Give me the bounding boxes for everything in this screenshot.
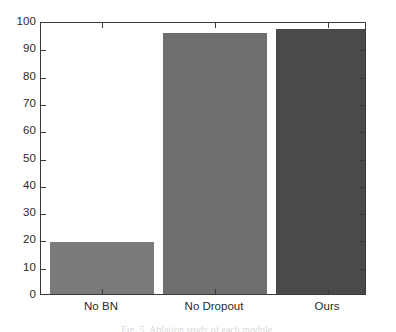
x-tick-mark: [215, 289, 216, 294]
y-tick-mark: [360, 214, 365, 215]
x-tick-mark: [102, 289, 103, 294]
y-tick-label: 60: [0, 125, 36, 137]
y-tick-label: 80: [0, 71, 36, 83]
y-tick-mark: [41, 187, 46, 188]
x-tick-mark: [328, 23, 329, 28]
y-tick-label: 100: [0, 16, 36, 28]
y-tick-mark: [360, 105, 365, 106]
x-tick-label-ours: Ours: [315, 300, 340, 313]
y-tick-label: 10: [0, 262, 36, 274]
x-tick-label-no-dropout: No Dropout: [185, 300, 244, 313]
y-tick-mark: [41, 269, 46, 270]
plot-area: [40, 22, 366, 295]
y-tick-label: 20: [0, 235, 36, 247]
y-tick-mark: [360, 187, 365, 188]
y-tick-mark: [41, 50, 46, 51]
y-tick-mark: [41, 132, 46, 133]
y-tick-mark: [41, 214, 46, 215]
x-tick-mark: [215, 23, 216, 28]
x-tick-label-no-bn: No BN: [84, 300, 118, 313]
figure-caption: Fig. 5. Ablation study of each module.: [0, 323, 396, 332]
y-tick-label: 0: [0, 289, 36, 301]
y-tick-mark: [360, 78, 365, 79]
y-tick-mark: [360, 50, 365, 51]
y-tick-label: 50: [0, 153, 36, 165]
y-tick-mark: [41, 160, 46, 161]
bar-no-bn: [50, 242, 154, 294]
y-tick-mark: [360, 160, 365, 161]
y-tick-mark: [41, 241, 46, 242]
y-tick-label: 40: [0, 180, 36, 192]
x-tick-mark: [328, 289, 329, 294]
figure-container: 100 90 80 70 60 50 40 30 20 10 0: [0, 0, 396, 332]
y-axis-tick-labels: 100 90 80 70 60 50 40 30 20 10 0: [0, 22, 36, 295]
y-tick-label: 90: [0, 44, 36, 56]
y-tick-mark: [360, 269, 365, 270]
y-tick-label: 70: [0, 98, 36, 110]
y-tick-mark: [41, 105, 46, 106]
y-tick-mark: [360, 241, 365, 242]
y-tick-label: 30: [0, 207, 36, 219]
x-tick-mark: [102, 23, 103, 28]
y-tick-mark: [41, 78, 46, 79]
x-axis-tick-labels: No BN No Dropout Ours: [40, 300, 366, 316]
bar-ours: [276, 29, 366, 294]
bar-no-dropout: [163, 33, 267, 294]
y-tick-mark: [360, 132, 365, 133]
